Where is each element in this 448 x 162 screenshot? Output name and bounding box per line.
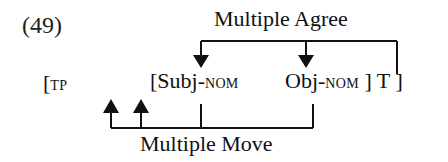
arrow-down-icon bbox=[193, 55, 209, 68]
arrow-up-icon bbox=[103, 99, 119, 113]
arrow-up-icon bbox=[133, 99, 149, 113]
relation-lines bbox=[0, 0, 448, 162]
diagram-canvas: (49) Multiple Agree [TP [Subj-NOM Obj-NO… bbox=[0, 0, 448, 162]
arrow-down-icon bbox=[298, 55, 314, 68]
agree-bracket bbox=[201, 41, 397, 74]
